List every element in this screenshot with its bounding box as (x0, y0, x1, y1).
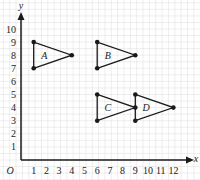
x-tick-label: 9 (133, 165, 138, 176)
vertex-point (95, 66, 100, 71)
x-tick-label: 5 (82, 165, 87, 176)
x-tick-label: 3 (57, 165, 62, 176)
vertex-point (171, 105, 176, 110)
x-tick-label: 10 (143, 165, 153, 176)
vertex-point (31, 40, 36, 45)
y-tick-label: 3 (11, 115, 16, 126)
y-tick-label: 4 (11, 102, 16, 113)
vertex-point (31, 66, 36, 71)
x-tick-label: 6 (95, 165, 100, 176)
x-tick-label: 4 (69, 165, 74, 176)
vertex-point (70, 53, 75, 58)
vertex-point (95, 40, 100, 45)
triangle-label: C (105, 102, 112, 113)
y-tick-label: 2 (11, 128, 16, 139)
y-tick-label: 1 (11, 141, 16, 152)
x-tick-label: 11 (156, 165, 166, 176)
x-tick-label: 1 (31, 165, 36, 176)
x-tick-label: 7 (107, 165, 112, 176)
x-tick-label: 8 (120, 165, 125, 176)
origin-label: O (6, 165, 13, 176)
x-axis-label: x (193, 153, 199, 164)
vertex-point (95, 118, 100, 123)
vertex-point (95, 92, 100, 97)
y-axis-label: y (18, 0, 24, 11)
y-tick-label: 5 (11, 89, 16, 100)
y-tick-label: 10 (6, 24, 16, 35)
grid-lines (0, 0, 200, 180)
vertex-point (133, 92, 138, 97)
triangle-label: B (105, 50, 111, 61)
coordinate-grid: 12345678910111212345678910Oxy ABCD (0, 0, 200, 180)
y-tick-label: 9 (11, 37, 16, 48)
x-tick-label: 12 (168, 165, 178, 176)
y-tick-label: 7 (11, 63, 16, 74)
vertex-point (133, 53, 138, 58)
y-tick-label: 8 (11, 50, 16, 61)
vertex-point (133, 118, 138, 123)
triangle-label: A (40, 50, 48, 61)
x-tick-label: 2 (44, 165, 49, 176)
y-tick-label: 6 (11, 76, 16, 87)
triangle-label: D (141, 102, 150, 113)
